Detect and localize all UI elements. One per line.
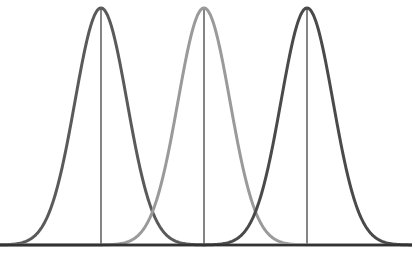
normal-distributions-chart bbox=[0, 0, 415, 266]
distribution-curves bbox=[0, 8, 412, 245]
distribution-2-curve bbox=[0, 8, 412, 245]
distribution-3-curve bbox=[0, 8, 412, 245]
distribution-1-curve bbox=[0, 8, 412, 245]
